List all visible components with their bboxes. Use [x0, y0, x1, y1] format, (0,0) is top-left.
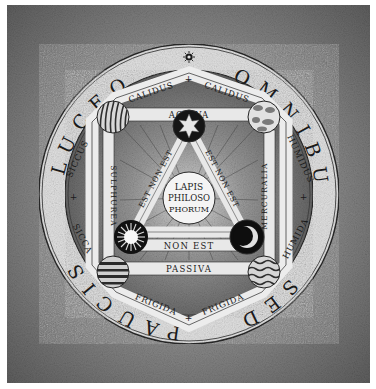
label-mercuralia: MERCURALIA	[260, 162, 269, 229]
cross-glyph-top: +	[185, 74, 193, 84]
sun-sigil-icon	[183, 51, 195, 63]
fire-element-icon	[97, 101, 129, 133]
water-element-icon	[248, 256, 280, 288]
label-passiva: PASSIVA	[166, 264, 212, 274]
crescent-moon-icon	[230, 220, 264, 254]
air-element-icon	[248, 101, 280, 133]
center-line-3: PHORUM	[169, 205, 209, 214]
sun-icon	[114, 220, 148, 254]
center-line-2: PHILOSO	[168, 193, 210, 203]
cross-glyph-right: +	[300, 192, 308, 202]
six-pointed-star-icon	[173, 110, 205, 142]
alchemical-emblem: LUCEO OMNIBUS SED PAUCIS	[0, 0, 376, 389]
label-non-est-middle: NON EST	[164, 241, 215, 251]
cross-glyph-bottom: +	[185, 313, 193, 323]
center-medallion: LAPIS PHILOSO PHORUM	[163, 172, 215, 224]
earth-element-icon	[96, 256, 130, 288]
cross-glyph-left: +	[70, 192, 78, 202]
label-sulphurea: SULPHUREA	[109, 165, 118, 227]
center-line-1: LAPIS	[175, 182, 203, 192]
